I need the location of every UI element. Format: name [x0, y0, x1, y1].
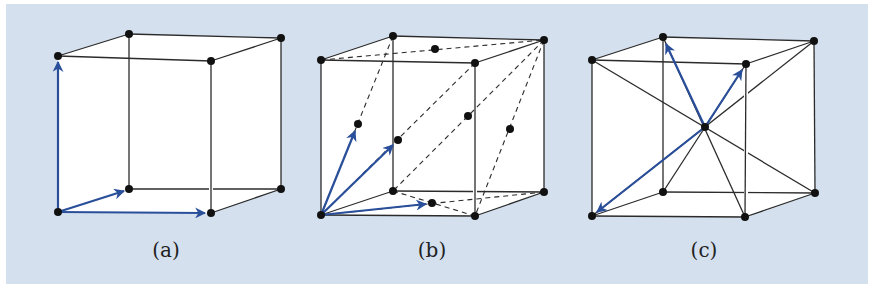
primitive-vector-a1 — [58, 212, 205, 213]
cube-c-bcc — [588, 33, 819, 221]
panel-label-a: (a) — [126, 238, 206, 262]
panel-label-b: (b) — [392, 238, 472, 262]
cube-b-fcc — [317, 32, 548, 220]
cube-a-simple-cubic — [54, 30, 285, 217]
panel-label-c: (c) — [664, 238, 744, 262]
